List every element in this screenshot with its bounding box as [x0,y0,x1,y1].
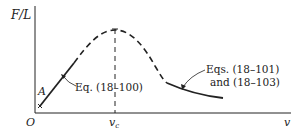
critical-velocity-label: vc [109,116,119,130]
dashed-bell-curve [74,30,167,83]
right-annotation-label-line1: Eqs. (18–101) [206,63,279,75]
right-annotation-label-line2: and (18–103) [210,76,280,88]
right-annotation-arrow-icon [181,70,205,90]
x-axis-label: v [284,116,291,129]
origin-label: O [26,116,35,129]
force-velocity-diagram: F/L O v vc A Eq. (18–100) Eqs. (18–101) … [0,0,308,135]
left-annotation-arrow-icon [61,74,76,86]
point-a-label: A [37,85,46,98]
left-annotation-label: Eq. (18–100) [75,81,143,93]
y-axis-label: F/L [10,8,31,22]
